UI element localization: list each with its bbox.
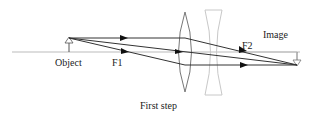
ray-arrowhead-icon — [120, 35, 128, 41]
f2-label: F2 — [242, 40, 253, 51]
image-label: Image — [263, 29, 289, 40]
object-label: Object — [55, 57, 82, 68]
ray-diagram: Object F1 F2 Image First step — [0, 0, 316, 123]
object-arrow — [65, 37, 73, 52]
caption: First step — [140, 100, 177, 111]
ray-arrowhead-icon — [240, 62, 248, 68]
ray-arrowhead-icon — [121, 48, 129, 54]
f1-label: F1 — [112, 57, 123, 68]
